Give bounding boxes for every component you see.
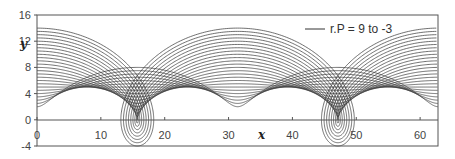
legend: r.P = 9 to -3 [305,22,392,36]
trochoid-chart: -40481216 0102030405060 y x r.P = 9 to -… [0,0,455,159]
x-tick-label: 20 [159,129,171,141]
x-tick-label: 10 [95,129,107,141]
y-tick-label: 4 [25,88,31,100]
x-tick-label: 40 [286,129,298,141]
y-tick-label: 0 [25,114,31,126]
x-axis-label: x [257,128,266,142]
x-tick-label: 50 [350,129,362,141]
legend-label: r.P = 9 to -3 [330,22,392,36]
y-tick-label: -4 [21,140,31,152]
y-tick-label: 8 [25,61,31,73]
x-axis-ticks: 0102030405060 [34,117,426,141]
x-tick-label: 30 [222,129,234,141]
x-tick-label: 0 [34,129,40,141]
x-tick-label: 60 [414,129,426,141]
y-axis-label: y [19,37,28,51]
y-tick-label: 16 [19,9,31,21]
